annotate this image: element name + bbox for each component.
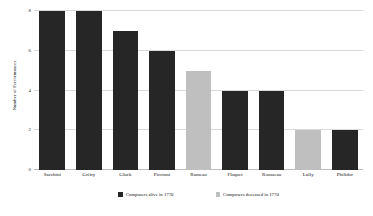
y-axis-title: Number of Performances xyxy=(9,0,21,170)
bar-slot xyxy=(34,11,71,170)
x-axis-label: Grétry xyxy=(71,172,108,177)
x-axis-label: Rousseau xyxy=(253,172,290,177)
bar-slot xyxy=(217,11,254,170)
bar-slot xyxy=(290,11,327,170)
x-axis-label: Floquet xyxy=(217,172,254,177)
y-axis-title-label: Number of Performances xyxy=(13,60,18,110)
bar-slot xyxy=(327,11,364,170)
legend-label: Composers alive in 1770 xyxy=(126,192,174,197)
bar-lully[interactable] xyxy=(295,130,321,170)
plot-area: 02468 xyxy=(34,11,363,170)
x-axis-label: Rameau xyxy=(180,172,217,177)
y-tick-label: 2 xyxy=(29,127,32,132)
x-axis-label: Gluck xyxy=(107,172,144,177)
bar-piccinni[interactable] xyxy=(149,51,175,170)
bar-gluck[interactable] xyxy=(113,31,139,170)
y-tick-label: 4 xyxy=(29,87,32,92)
bar-philidor[interactable] xyxy=(332,130,358,170)
bar-rameau[interactable] xyxy=(186,71,212,170)
bar-slot xyxy=(107,11,144,170)
bar-slot xyxy=(71,11,108,170)
y-tick-label: 6 xyxy=(29,47,32,52)
x-axis-labels: SacchiniGrétryGluckPiccinniRameauFloquet… xyxy=(34,172,363,177)
x-axis-label: Sacchini xyxy=(34,172,71,177)
bar-floquet[interactable] xyxy=(222,91,248,171)
legend-entry-deceased[interactable]: Composers deceased in 1770 xyxy=(216,192,279,197)
x-axis-label: Piccinni xyxy=(144,172,181,177)
bar-gr-try[interactable] xyxy=(76,11,102,170)
chart-legend: Composers alive in 1770Composers decease… xyxy=(34,192,363,197)
bar-rousseau[interactable] xyxy=(259,91,285,171)
bar-sacchini[interactable] xyxy=(39,11,65,170)
y-tick-label: 0 xyxy=(29,167,32,172)
legend-label: Composers deceased in 1770 xyxy=(223,192,279,197)
x-axis-label: Philidor xyxy=(327,172,364,177)
bar-slot xyxy=(144,11,181,170)
bar-slot xyxy=(253,11,290,170)
legend-swatch-icon xyxy=(216,192,221,197)
legend-swatch-icon xyxy=(118,192,123,197)
y-tick-label: 8 xyxy=(29,8,32,13)
bar-chart: Number of Performances 02468 SacchiniGré… xyxy=(0,0,373,216)
bars xyxy=(34,11,363,170)
bar-slot xyxy=(180,11,217,170)
x-axis-label: Lully xyxy=(290,172,327,177)
legend-entry-alive[interactable]: Composers alive in 1770 xyxy=(118,192,173,197)
